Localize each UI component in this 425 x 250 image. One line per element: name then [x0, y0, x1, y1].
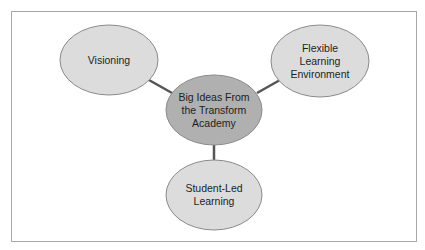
- node-student-led-learning: [166, 160, 262, 230]
- node-flexible-learning-environment: [271, 25, 369, 97]
- node-center-big-ideas: [166, 75, 262, 145]
- connector-flexible-learning-environment: [257, 80, 280, 93]
- concept-map: [0, 0, 425, 250]
- node-visioning: [60, 25, 158, 95]
- connector-visioning: [149, 80, 172, 93]
